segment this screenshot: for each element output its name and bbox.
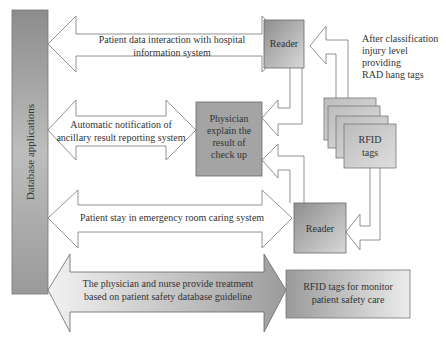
svg-text:The physician and nurse provid: The physician and nurse provide treatmen… [83, 278, 254, 289]
svg-text:explain the: explain the [207, 125, 252, 136]
flow-arrow-ancillary-notification: Automatic notification of ancillary resu… [48, 100, 196, 160]
rfid-tags-stack: RFID tags [324, 98, 396, 168]
database-applications-bar: Database applications [12, 10, 48, 294]
svg-text:patient safety care: patient safety care [312, 294, 385, 305]
svg-text:injury level: injury level [362, 45, 408, 56]
svg-text:RFID tags for monitor: RFID tags for monitor [303, 281, 393, 292]
connector-reader2-to-physician [262, 144, 304, 203]
svg-text:After classification: After classification [362, 33, 438, 44]
rfid-monitor-box: RFID tags for monitor patient safety car… [286, 270, 410, 318]
svg-text:tags: tags [362, 147, 378, 158]
svg-text:Physician: Physician [210, 113, 249, 124]
svg-text:ancillary result reporting sys: ancillary result reporting system [56, 132, 185, 143]
flow-arrow-emergency-room: Patient stay in emergency room caring sy… [48, 190, 292, 248]
svg-text:providing: providing [362, 57, 401, 68]
svg-text:result of: result of [212, 137, 246, 148]
svg-text:RAD hang tags: RAD hang tags [362, 69, 424, 80]
svg-text:Automatic notification of: Automatic notification of [70, 119, 172, 130]
svg-text:Reader: Reader [306, 223, 335, 234]
svg-text:Reader: Reader [270, 38, 299, 49]
flow-arrow-hospital-info: Patient data interaction with hospital i… [48, 16, 290, 72]
connector-reader-to-physician [262, 68, 302, 136]
reader-bottom: Reader [294, 203, 346, 253]
svg-text:Patient stay in emergency room: Patient stay in emergency room caring sy… [80, 212, 264, 223]
flow-arrow-treatment-guideline: The physician and nurse provide treatmen… [48, 254, 286, 332]
database-applications-label: Database applications [24, 104, 36, 200]
svg-text:based on patient safety databa: based on patient safety database guideli… [84, 291, 253, 302]
reader-top: Reader [264, 20, 304, 68]
rfid-database-diagram: Database applications Patient data inter… [0, 0, 446, 342]
svg-text:check up: check up [211, 149, 247, 160]
physician-box: Physician explain the result of check up [196, 102, 262, 176]
connector-tags-to-reader2 [346, 166, 380, 250]
svg-text:information system: information system [133, 47, 211, 58]
classification-annotation: After classification injury level provid… [362, 33, 438, 80]
connector-tags-to-reader [310, 26, 348, 100]
svg-text:RFID: RFID [359, 134, 382, 145]
svg-text:Patient data interaction with: Patient data interaction with hospital [99, 34, 246, 45]
